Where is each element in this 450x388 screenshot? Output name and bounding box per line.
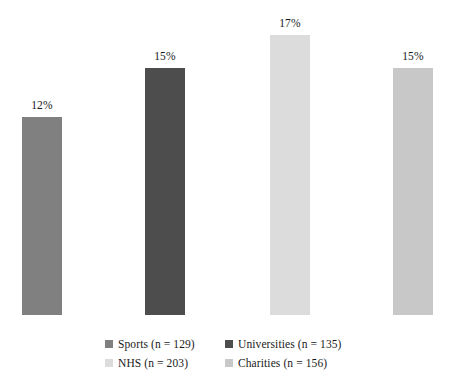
bar-universities[interactable] [145, 68, 185, 315]
legend-item-nhs[interactable]: NHS (n = 203) [104, 354, 214, 372]
legend-row-1: Sports (n = 129) Universities (n = 135) [0, 335, 450, 353]
bar-sports[interactable] [22, 117, 62, 315]
bar-group-universities: 15% [145, 15, 185, 315]
legend-swatch-icon-sports [105, 340, 113, 348]
bar-nhs[interactable] [270, 35, 310, 315]
plot-area: 12% 15% 17% 15% [0, 0, 450, 322]
legend-row-2: NHS (n = 203) Charities (n = 156) [0, 354, 450, 372]
bar-charities[interactable] [393, 68, 433, 315]
legend-label-sports: Sports (n = 129) [118, 337, 195, 351]
bar-group-sports: 12% [22, 15, 62, 315]
legend-swatch-icon-charities [225, 359, 233, 367]
bar-value-label-universities: 15% [154, 50, 176, 63]
bar-value-label-nhs: 17% [279, 17, 301, 30]
legend-swatch-icon-nhs [105, 359, 113, 367]
legend-item-charities[interactable]: Charities (n = 156) [214, 354, 346, 372]
bar-group-charities: 15% [393, 15, 433, 315]
legend-label-nhs: NHS (n = 203) [118, 356, 188, 370]
bar-value-label-sports: 12% [31, 99, 53, 112]
legend-item-sports[interactable]: Sports (n = 129) [104, 335, 214, 353]
bar-chart: 12% 15% 17% 15% Sports (n = 129) Univers… [0, 0, 450, 388]
legend-item-universities[interactable]: Universities (n = 135) [214, 335, 346, 353]
bar-value-label-charities: 15% [402, 50, 424, 63]
legend-label-universities: Universities (n = 135) [238, 337, 342, 351]
legend-label-charities: Charities (n = 156) [238, 356, 327, 370]
bar-group-nhs: 17% [270, 15, 310, 315]
legend-swatch-icon-universities [225, 340, 233, 348]
chart-legend: Sports (n = 129) Universities (n = 135) … [0, 333, 450, 375]
